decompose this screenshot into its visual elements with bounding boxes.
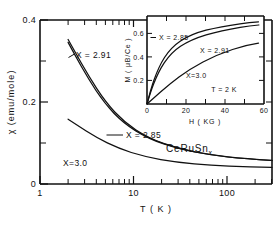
main-curve-label-x291: X = 2.91	[76, 50, 111, 60]
inset-curve-label-x30: X=3.0	[186, 72, 207, 79]
inset-plot: 0.6 0.4 0.2 0 20 40 60 H ( KG ) M ( μB/C…	[124, 16, 268, 126]
inset-y-axis-label: M ( μB/Ce )	[124, 38, 132, 83]
main-xtick-label-10: 10	[128, 188, 139, 198]
main-x-axis-label: T ( K )	[140, 204, 172, 214]
inset-xtick-label-0: 0	[145, 107, 149, 114]
inset-background	[147, 16, 264, 104]
inset-ytick-label-0.2: 0.2	[133, 77, 144, 84]
inset-ytick-label-0.6: 0.6	[133, 30, 144, 37]
formula-base: CeRuSn	[166, 143, 209, 154]
main-ytick-label-0.2: 0.2	[23, 97, 36, 107]
main-xtick-label-1: 1	[37, 188, 42, 198]
main-curve-label-x30: X=3.0	[63, 158, 87, 168]
figure-container: 0.4 0.2 0 1 10 100 T ( K ) χ (emu/mole) …	[0, 0, 278, 228]
main-ytick-label-0.4: 0.4	[23, 15, 36, 25]
inset-xtick-label-20: 20	[182, 107, 190, 114]
inset-xtick-label-40: 40	[221, 107, 229, 114]
susceptibility-magnetization-chart: 0.4 0.2 0 1 10 100 T ( K ) χ (emu/mole) …	[0, 0, 278, 228]
inset-ytick-label-0.4: 0.4	[133, 54, 144, 61]
main-ytick-label-0: 0	[31, 179, 36, 189]
inset-curve-label-x291: X = 2.91	[200, 47, 229, 54]
inset-x-axis-label: H ( KG )	[189, 118, 221, 126]
inset-curve-label-x285: X = 2.85	[159, 34, 188, 41]
main-y-axis-label: χ (emu/mole)	[6, 70, 16, 135]
inset-temperature-note: T = 2 K	[211, 86, 236, 93]
inset-xtick-label-60: 60	[260, 107, 268, 114]
main-curve-label-x285: X = 2.85	[126, 130, 161, 140]
leader-x291	[69, 54, 75, 58]
formula-subscript: x	[209, 149, 213, 156]
main-xtick-label-100: 100	[219, 188, 235, 198]
